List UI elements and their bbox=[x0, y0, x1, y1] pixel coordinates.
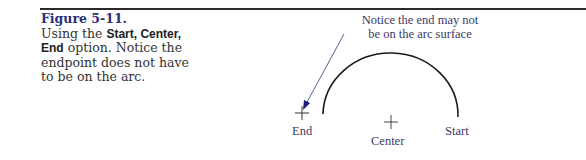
end-label: End bbox=[292, 124, 312, 139]
start-label: Start bbox=[445, 124, 469, 139]
arc-curve bbox=[323, 53, 458, 117]
center-label: Center bbox=[371, 134, 404, 149]
arrowhead-icon bbox=[303, 100, 310, 110]
end-point-cross-icon bbox=[295, 106, 309, 120]
leader-line bbox=[306, 34, 344, 104]
center-point-cross-icon bbox=[384, 115, 398, 129]
